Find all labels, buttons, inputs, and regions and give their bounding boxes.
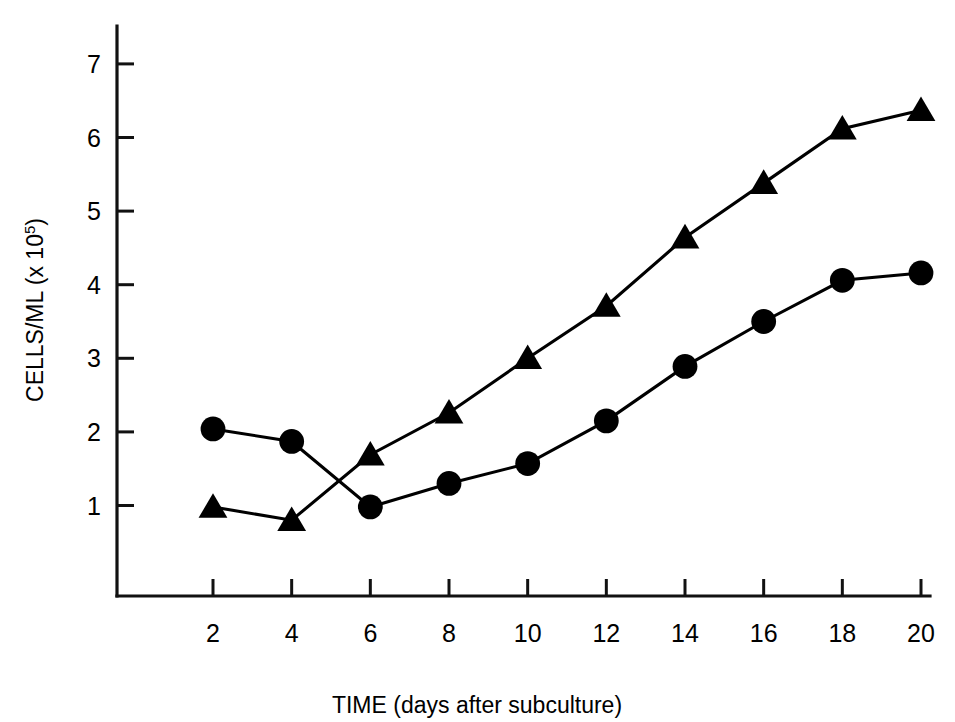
- chart-background: [0, 0, 955, 722]
- y-tick-label-6: 6: [87, 124, 101, 152]
- data-point-circle-series-day-2: [201, 417, 226, 442]
- chart-figure: 1234567 2468101214161820 TIME (days afte…: [0, 0, 955, 722]
- y-tick-label-3: 3: [87, 344, 101, 372]
- y-tick-label-2: 2: [87, 418, 101, 446]
- data-point-circle-series-day-4: [279, 429, 304, 454]
- x-axis-title: TIME (days after subculture): [332, 692, 622, 718]
- x-tick-label-16: 16: [750, 619, 778, 647]
- y-tick-label-4: 4: [87, 271, 101, 299]
- x-tick-label-6: 6: [363, 619, 377, 647]
- growth-curve-chart: 1234567 2468101214161820 TIME (days afte…: [0, 0, 955, 722]
- x-tick-label-18: 18: [828, 619, 856, 647]
- x-tick-label-8: 8: [442, 619, 456, 647]
- y-tick-label-5: 5: [87, 197, 101, 225]
- data-point-circle-series-day-12: [594, 408, 619, 433]
- y-axis-title-exponent: 5: [21, 226, 38, 234]
- y-tick-label-7: 7: [87, 50, 101, 78]
- data-point-circle-series-day-10: [515, 451, 540, 476]
- data-point-circle-series-day-18: [830, 268, 855, 293]
- data-point-circle-series-day-6: [358, 495, 383, 520]
- y-axis-title-close: ): [22, 218, 48, 226]
- x-tick-label-2: 2: [206, 619, 220, 647]
- x-tick-label-14: 14: [671, 619, 699, 647]
- x-tick-label-20: 20: [907, 619, 935, 647]
- x-tick-label-4: 4: [285, 619, 299, 647]
- data-point-circle-series-day-8: [437, 471, 462, 496]
- y-axis-title: CELLS/ML (x 105): [21, 218, 48, 402]
- data-point-circle-series-day-14: [673, 354, 698, 379]
- svg-text:CELLS/ML (x 105): CELLS/ML (x 105): [21, 218, 48, 402]
- data-point-circle-series-day-16: [751, 309, 776, 334]
- y-tick-label-1: 1: [87, 492, 101, 520]
- y-axis-title-base: CELLS/ML (x 10: [22, 234, 48, 402]
- data-point-circle-series-day-20: [909, 261, 934, 286]
- x-tick-label-10: 10: [514, 619, 542, 647]
- x-tick-label-12: 12: [592, 619, 620, 647]
